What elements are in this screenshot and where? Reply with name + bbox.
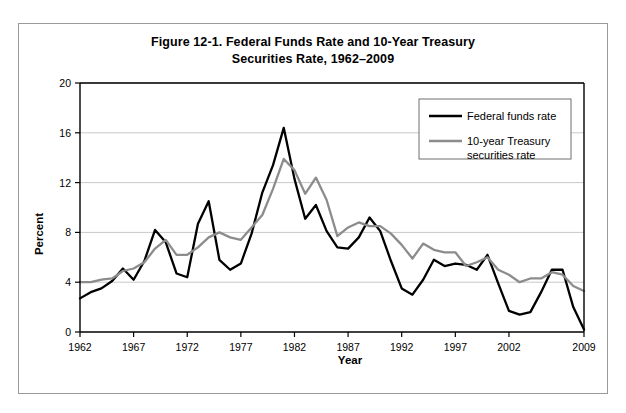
figure-frame: Figure 12-1. Federal Funds Rate and 10-Y…: [18, 23, 608, 394]
x-axis-title: Year: [338, 354, 363, 366]
line-chart: 048121620 196219671972197719821987199219…: [19, 24, 609, 395]
x-tick-label-1997: 1997: [444, 341, 468, 353]
y-axis-title: Percent: [33, 213, 45, 255]
y-tick-label-0: 0: [65, 326, 71, 338]
x-tick-label-2009: 2009: [572, 341, 596, 353]
y-axis-tick-labels: 048121620: [59, 77, 71, 338]
x-tick-label-1977: 1977: [229, 341, 253, 353]
legend-label-treasury-rate-line-1: 10-year Treasury: [467, 135, 551, 147]
legend-label-treasury-rate-line-2: securities rate: [467, 149, 535, 161]
x-tick-label-1987: 1987: [336, 341, 360, 353]
y-tick-label-8: 8: [65, 226, 71, 238]
x-tick-label-1967: 1967: [122, 341, 146, 353]
y-tick-label-16: 16: [59, 127, 71, 139]
legend-label-federal-funds-rate: Federal funds rate: [467, 110, 556, 122]
y-tick-label-4: 4: [65, 276, 71, 288]
y-tick-label-12: 12: [59, 177, 71, 189]
series-line-treasury-rate: [80, 159, 584, 291]
x-tick-label-1992: 1992: [390, 341, 414, 353]
x-axis-tick-labels: 1962196719721977198219871992199720022009: [68, 341, 596, 353]
x-tick-label-2002: 2002: [497, 341, 521, 353]
x-tick-label-1962: 1962: [68, 341, 92, 353]
x-tick-label-1972: 1972: [176, 341, 200, 353]
y-tick-label-20: 20: [59, 77, 71, 89]
x-tick-label-1982: 1982: [283, 341, 307, 353]
legend: Federal funds rate 10-year Treasury secu…: [419, 99, 571, 161]
